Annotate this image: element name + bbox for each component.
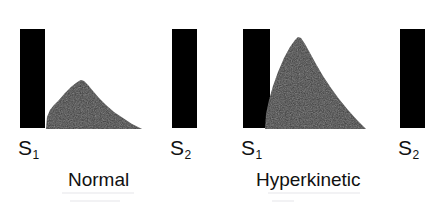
s2-label-subscript: 2	[185, 148, 192, 162]
s1-label-subscript: 1	[256, 148, 263, 162]
s2-bar-normal	[172, 29, 197, 128]
s2-label-text: S	[170, 136, 184, 159]
s1-label-subscript: 1	[33, 148, 40, 162]
s2-label-normal: S2	[170, 137, 191, 158]
panel-normal: S1 S2 Normal	[0, 0, 223, 207]
s1-label-text: S	[18, 136, 32, 159]
scan-artifact	[62, 192, 134, 194]
murmur-normal	[45, 78, 142, 129]
caption-normal: Normal	[68, 170, 129, 189]
murmur-hyperkinetic	[249, 36, 366, 129]
s1-label-text: S	[241, 136, 255, 159]
s2-label-subscript: 2	[413, 148, 420, 162]
s1-bar-normal	[20, 29, 45, 128]
scan-artifact	[272, 200, 294, 202]
s2-label-text: S	[398, 136, 412, 159]
s1-label-normal: S1	[18, 137, 39, 158]
s2-bar-hyperkinetic	[400, 29, 425, 128]
scan-artifact	[268, 192, 360, 194]
s2-label-hyperkinetic: S2	[398, 137, 419, 158]
panel-hyperkinetic: S1 S2 Hyperkinetic	[223, 0, 446, 207]
s1-label-hyperkinetic: S1	[241, 137, 262, 158]
caption-hyperkinetic: Hyperkinetic	[256, 170, 361, 189]
scan-artifact	[70, 200, 120, 202]
phonocardiogram-figure: S1 S2 Normal	[0, 0, 446, 207]
